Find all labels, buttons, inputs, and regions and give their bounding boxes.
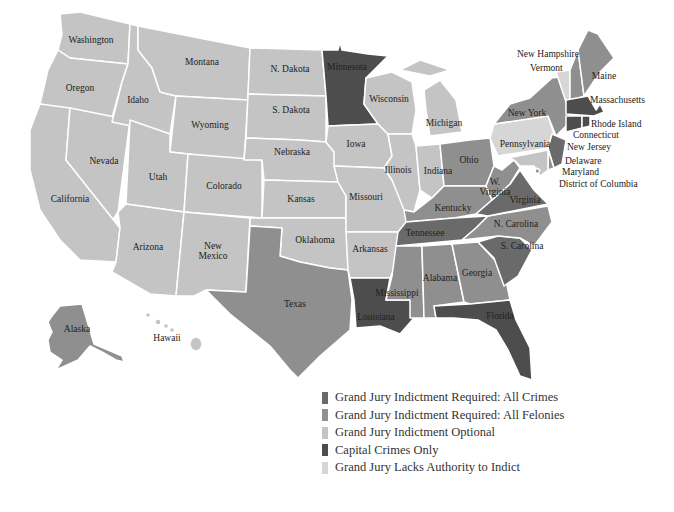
state-s-dakota[interactable] [246, 94, 326, 142]
label-alabama: Alabama [423, 274, 457, 284]
label-wyoming: Wyoming [191, 121, 228, 131]
state-rhode-island[interactable] [582, 116, 590, 128]
label-district-of-columbia: District of Columbia [559, 180, 638, 190]
legend-label: Capital Crimes Only [335, 443, 438, 458]
label-delaware: Delaware [565, 157, 601, 167]
state-alaska[interactable] [48, 304, 124, 370]
label-pennsylvania: Pennsylvania [500, 140, 551, 150]
label-new-hampshire: New Hampshire [517, 50, 579, 60]
label-nevada: Nevada [89, 157, 118, 167]
swatch-capital-only [322, 444, 328, 456]
label-connecticut: Connecticut [573, 131, 619, 141]
label-kentucky: Kentucky [435, 204, 472, 214]
label-massachusetts: Massachusetts [590, 96, 645, 106]
label-colorado: Colorado [206, 182, 241, 192]
label-iowa: Iowa [347, 140, 366, 150]
state-hawaii[interactable] [146, 313, 203, 352]
label-rhode-island: Rhode Island [591, 120, 641, 130]
label-louisiana: Louisiana [357, 313, 394, 323]
swatch-all-crimes [322, 392, 328, 404]
label-arkansas: Arkansas [352, 245, 387, 255]
swatch-lacks-authority [322, 462, 328, 474]
label-s-carolina: S. Carolina [501, 242, 544, 252]
label-vermont: Vermont [530, 64, 563, 74]
swatch-optional [322, 427, 328, 439]
label-oklahoma: Oklahoma [295, 236, 335, 246]
legend-label: Grand Jury Indictment Required: All Felo… [335, 408, 564, 423]
label-hawaii: Hawaii [153, 334, 180, 344]
label-kansas: Kansas [287, 195, 314, 205]
label-montana: Montana [185, 58, 219, 68]
state-maine[interactable] [578, 30, 614, 96]
label-new-jersey: New Jersey [567, 143, 611, 153]
label-washington: Washington [68, 36, 113, 46]
label-mississippi: Mississippi [375, 289, 418, 299]
legend-item-all-felonies: Grand Jury Indictment Required: All Felo… [322, 407, 564, 425]
label-michigan: Michigan [426, 119, 462, 129]
state-district-of-columbia[interactable] [535, 168, 540, 174]
label-california: California [51, 195, 90, 205]
label-new-york: New York [508, 109, 547, 119]
label-georgia: Georgia [462, 269, 492, 279]
label-w-virginia: W. Virginia [480, 178, 511, 198]
label-texas: Texas [284, 300, 306, 310]
label-n-carolina: N. Carolina [494, 220, 538, 230]
label-idaho: Idaho [127, 96, 149, 106]
label-nebraska: Nebraska [274, 148, 310, 158]
legend-item-all-crimes: Grand Jury Indictment Required: All Crim… [322, 389, 564, 407]
label-alaska: Alaska [64, 325, 90, 335]
swatch-all-felonies [322, 409, 328, 421]
label-virginia: Virginia [510, 196, 541, 206]
label-utah: Utah [149, 173, 167, 183]
label-maine: Maine [592, 72, 616, 82]
label-missouri: Missouri [349, 193, 383, 203]
label-florida: Florida [486, 312, 513, 322]
label-maryland: Maryland [562, 168, 599, 178]
legend-label: Grand Jury Indictment Optional [335, 425, 495, 440]
label-new-mexico: New Mexico [198, 242, 227, 262]
legend-item-lacks-authority: Grand Jury Lacks Authority to Indict [322, 459, 564, 477]
label-n-dakota: N. Dakota [270, 65, 309, 75]
legend-item-optional: Grand Jury Indictment Optional [322, 424, 564, 442]
label-tennessee: Tennessee [406, 229, 445, 239]
legend-label: Grand Jury Indictment Required: All Crim… [335, 390, 558, 405]
label-arizona: Arizona [133, 243, 164, 253]
label-indiana: Indiana [424, 167, 453, 177]
state-florida[interactable] [434, 300, 532, 380]
label-minnesota: Minnesota [327, 63, 367, 73]
legend-label: Grand Jury Lacks Authority to Indict [335, 460, 520, 475]
legend-item-capital-only: Capital Crimes Only [322, 442, 564, 460]
label-oregon: Oregon [66, 84, 95, 94]
label-s-dakota: S. Dakota [272, 106, 309, 116]
label-illinois: Illinois [385, 166, 412, 176]
label-ohio: Ohio [460, 156, 479, 166]
label-wisconsin: Wisconsin [369, 95, 409, 105]
legend: Grand Jury Indictment Required: All Crim… [322, 389, 564, 477]
